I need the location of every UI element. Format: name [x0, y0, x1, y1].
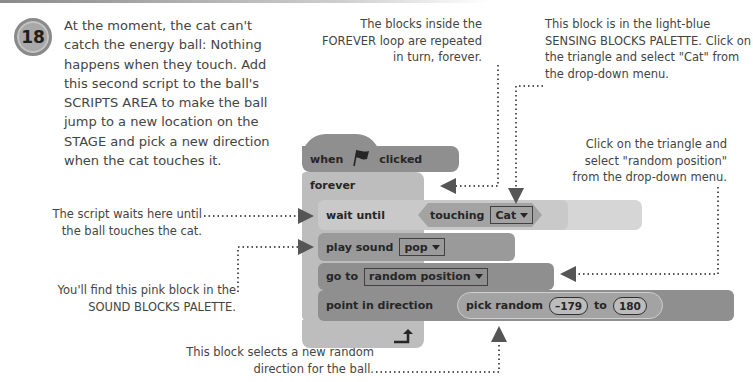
pick-random-from-input[interactable]: –179 — [549, 297, 588, 315]
green-flag-icon — [351, 149, 371, 170]
when-flag-clicked-block[interactable]: when clicked — [302, 146, 459, 172]
sound-value: pop — [404, 241, 427, 254]
wait-until-label: wait until — [326, 209, 385, 222]
when-label: when — [310, 153, 343, 166]
sound-dropdown[interactable]: pop — [399, 238, 444, 256]
pick-random-block[interactable]: pick random –179 to 180 — [457, 292, 663, 319]
pick-random-to-input[interactable]: 180 — [613, 297, 647, 315]
touching-target-value: Cat — [495, 209, 516, 222]
dropdown-triangle-icon[interactable] — [432, 245, 440, 250]
annotation-forever-loop: The blocks inside the FOREVER loop are r… — [320, 16, 482, 66]
play-sound-block[interactable]: play sound pop — [318, 233, 515, 261]
annotation-sensing-block: This block is in the light-blue SENSING … — [545, 16, 753, 82]
go-to-target-value: random position — [369, 270, 471, 283]
loop-arrow-icon — [393, 328, 415, 344]
annotation-random-direction: This block selects a new random directio… — [150, 344, 374, 377]
go-to-block[interactable]: go to random position — [318, 263, 554, 290]
go-to-label: go to — [326, 270, 358, 283]
top-rule — [0, 0, 490, 3]
step-number-badge: 18 — [14, 18, 52, 56]
annotation-random-position: Click on the triangle and select "random… — [555, 136, 727, 186]
annotation-sound-block: You'll find this pink block in the SOUND… — [40, 282, 236, 315]
pick-random-to-label: to — [594, 299, 607, 312]
forever-label: forever — [302, 172, 424, 198]
go-to-target-dropdown[interactable]: random position — [364, 268, 488, 286]
step-instructions: At the moment, the cat can't catch the e… — [64, 16, 274, 170]
annotation-wait-until: The script waits here until the ball tou… — [34, 206, 202, 239]
clicked-label: clicked — [379, 153, 422, 166]
touching-target-dropdown[interactable]: Cat — [490, 206, 533, 224]
play-sound-label: play sound — [326, 241, 393, 254]
dropdown-triangle-icon[interactable] — [520, 213, 528, 218]
pick-random-label: pick random — [466, 299, 543, 312]
point-in-direction-label: point in direction — [326, 299, 433, 312]
touching-sensing-block[interactable]: touching Cat ? — [418, 203, 542, 227]
touching-label: touching — [430, 209, 484, 222]
dropdown-triangle-icon[interactable] — [475, 274, 483, 279]
